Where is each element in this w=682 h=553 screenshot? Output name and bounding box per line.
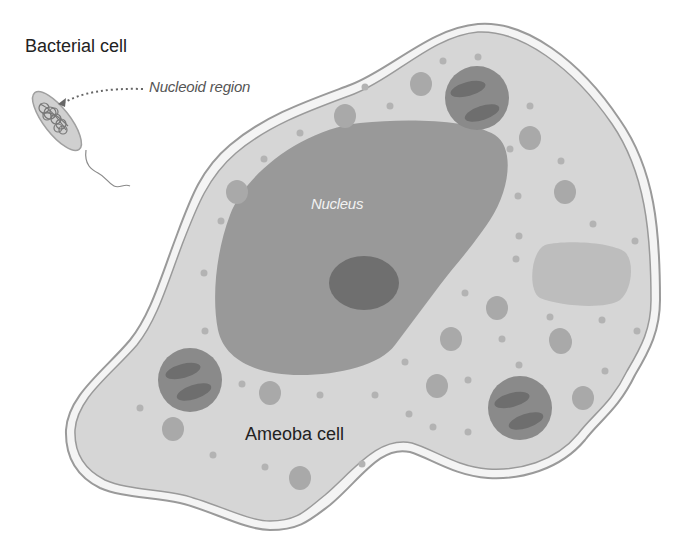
- bacterial-cell: [25, 85, 143, 187]
- ameoba-cell: [66, 24, 660, 530]
- mitochondrion: [158, 348, 222, 412]
- flagellum: [86, 150, 130, 187]
- bacterial-cell-label: Bacterial cell: [25, 36, 127, 57]
- ameoba-cell-label: Ameoba cell: [245, 424, 344, 445]
- nucleus-label: Nucleus: [311, 195, 363, 212]
- nucleoid-region-label: Nucleoid region: [149, 78, 250, 95]
- cell-comparison-diagram: [0, 0, 682, 553]
- mitochondrion: [445, 66, 509, 130]
- nucleolus: [329, 256, 399, 310]
- pointer-arrow: [62, 89, 143, 104]
- large-vacuole: [532, 242, 631, 306]
- mitochondrion: [488, 376, 552, 440]
